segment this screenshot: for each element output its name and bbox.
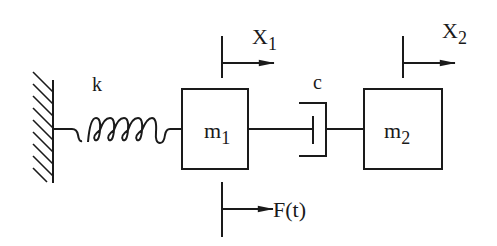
spring	[53, 118, 182, 143]
force-label: F(t)	[273, 197, 306, 222]
fixed-wall	[33, 72, 53, 183]
displacement-x1-label: X1	[252, 24, 277, 54]
mass-1-label: m1	[204, 118, 230, 148]
displacement-x2-label: X2	[442, 18, 467, 48]
damper	[248, 103, 364, 156]
damping-coefficient-label: c	[313, 71, 322, 93]
spring-constant-label: k	[92, 73, 102, 95]
force-arrow	[222, 182, 273, 237]
mass-2-label: m2	[384, 118, 410, 148]
spring-mass-damper-diagram: k m1 X1 c m2 X2 F(t)	[0, 0, 497, 246]
